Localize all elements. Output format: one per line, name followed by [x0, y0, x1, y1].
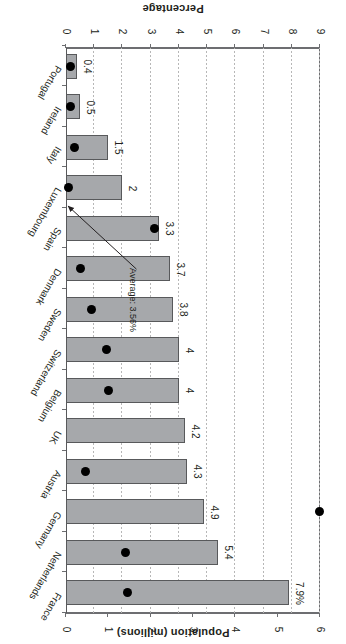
population-dot	[66, 102, 75, 111]
bar-value-label: 3.3	[164, 217, 175, 241]
percentage-tick	[291, 44, 292, 48]
category-baseline	[66, 48, 67, 613]
category-tick	[62, 491, 66, 492]
bar	[66, 499, 204, 524]
category-tick	[62, 126, 66, 127]
category-tick	[62, 450, 66, 451]
category-tick	[62, 288, 66, 289]
percentage-tick	[93, 44, 94, 48]
bar-chart-figure: Percentage Population (millions) 0123456…	[0, 0, 346, 644]
percentage-tick	[319, 44, 320, 48]
gridline	[121, 48, 122, 613]
gridline	[291, 48, 292, 613]
percentage-tick-label: 1	[89, 24, 100, 40]
bar	[66, 580, 289, 605]
category-tick	[62, 410, 66, 411]
gridline	[319, 48, 320, 613]
percentage-tick	[234, 44, 235, 48]
category-tick	[62, 572, 66, 573]
percentage-tick-label: 3	[145, 24, 156, 40]
category-label: Germany	[34, 510, 64, 551]
percentage-tick-label: 4	[173, 24, 184, 40]
category-tick	[62, 329, 66, 330]
percentage-axis-title: Percentage	[0, 3, 346, 15]
category-label: Spain	[41, 226, 63, 254]
category-tick	[62, 369, 66, 370]
percentage-tick	[206, 44, 207, 48]
population-tick-label: 0	[61, 622, 72, 638]
bar-value-label: 4.3	[192, 460, 203, 484]
bar-value-label: 7.9%	[293, 581, 304, 605]
population-tick-label: 5	[272, 622, 283, 638]
population-tick	[150, 613, 151, 617]
bar-value-label: 0.5	[85, 95, 96, 119]
category-tick	[62, 207, 66, 208]
population-tick	[107, 613, 108, 617]
gridline	[263, 48, 264, 613]
gridline	[178, 48, 179, 613]
average-annotation-label: Average: 3.56%	[128, 265, 138, 335]
category-tick	[62, 167, 66, 168]
category-label: Italy	[45, 145, 64, 166]
category-label: UK	[47, 429, 63, 447]
population-dot	[121, 548, 130, 557]
population-tick	[234, 613, 235, 617]
population-axis-title: Population (millions)	[0, 627, 346, 639]
bar	[66, 540, 218, 565]
population-tick	[319, 613, 320, 617]
population-tick	[192, 613, 193, 617]
population-tick	[277, 613, 278, 617]
bar-value-label: 5.4	[223, 541, 234, 565]
bar	[66, 175, 122, 200]
gridline	[206, 48, 207, 613]
population-dot	[104, 386, 113, 395]
gridline	[234, 48, 235, 613]
population-dot	[81, 467, 90, 476]
population-tick-label: 4	[230, 622, 241, 638]
average-annotation-arrow	[40, 33, 320, 613]
percentage-tick-label: 7	[258, 24, 269, 40]
category-tick	[62, 531, 66, 532]
plot-top-border	[66, 612, 320, 613]
category-label: Austria	[39, 469, 64, 501]
bar	[66, 378, 179, 403]
population-dot	[102, 345, 111, 354]
population-tick-label: 1	[103, 622, 114, 638]
percentage-tick-label: 9	[315, 24, 326, 40]
category-tick	[62, 86, 66, 87]
category-label: Sweden	[36, 307, 64, 344]
population-tick-label: 2	[145, 622, 156, 638]
category-tick	[62, 45, 66, 46]
bar-value-label: 4.9	[209, 500, 220, 524]
bar	[66, 418, 185, 443]
gridline	[150, 48, 151, 613]
population-dot	[316, 507, 325, 516]
bar	[66, 297, 173, 322]
population-tick-label: 6	[315, 622, 326, 638]
bar-value-label: 4	[183, 338, 194, 362]
population-dot	[70, 143, 79, 152]
percentage-tick	[150, 44, 151, 48]
bar	[66, 216, 159, 241]
plot-area: 0123456789 0123456 7.9%5.44.94.34.2443.8…	[66, 47, 320, 614]
population-dot	[64, 183, 73, 192]
category-label: Denmark	[34, 267, 64, 308]
percentage-tick-label: 8	[286, 24, 297, 40]
bar-value-label: 3.7	[175, 257, 186, 281]
bar	[66, 337, 179, 362]
category-tick	[62, 612, 66, 613]
population-dot	[66, 62, 75, 71]
bar-value-label: 0.4	[82, 55, 93, 79]
bar-value-label: 2	[127, 176, 138, 200]
percentage-tick	[263, 44, 264, 48]
chart-rotated-container: Percentage Population (millions) 0123456…	[0, 0, 346, 644]
percentage-tick-label: 2	[117, 24, 128, 40]
percentage-tick	[178, 44, 179, 48]
plot-bottom-border	[66, 48, 320, 49]
percentage-tick	[121, 44, 122, 48]
bar-value-label: 1.5	[113, 136, 124, 160]
category-label: Ireland	[39, 105, 64, 137]
bar-value-label: 4	[183, 379, 194, 403]
percentage-tick-label: 0	[61, 24, 72, 40]
category-label: France	[39, 591, 64, 623]
